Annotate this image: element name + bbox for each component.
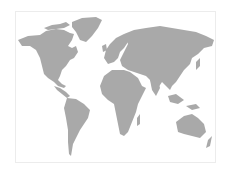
world-map — [0, 0, 230, 170]
southeast-asia-islands — [168, 94, 184, 104]
india — [150, 80, 160, 96]
greenland — [72, 17, 102, 42]
australia — [176, 114, 206, 138]
madagascar — [137, 114, 140, 126]
central-america — [54, 86, 70, 98]
new-zealand — [206, 136, 212, 148]
new-guinea — [186, 104, 200, 110]
north-america — [18, 29, 78, 88]
south-america — [64, 98, 90, 156]
africa — [100, 70, 146, 136]
japan — [196, 58, 200, 70]
arctic-islands — [44, 22, 70, 30]
